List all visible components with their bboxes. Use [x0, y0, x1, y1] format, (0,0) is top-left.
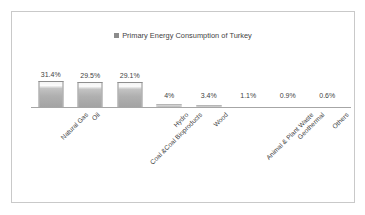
bar-value-label: 29.5%: [71, 72, 111, 79]
x-axis-tick-oil: Oil: [71, 109, 111, 169]
bar-group[interactable]: 31.4%: [31, 52, 71, 107]
bar-group[interactable]: 0.9%: [268, 52, 308, 107]
bar-value-label: 0.6%: [308, 92, 348, 99]
x-axis-tick-label: Oil: [91, 111, 102, 122]
bar-natural-gas[interactable]: [38, 81, 63, 107]
bar-value-label: 31.4%: [31, 71, 71, 78]
chart-frame: Primary Energy Consumption of Turkey 31.…: [11, 11, 355, 203]
x-axis-tick-others: Others: [308, 109, 348, 169]
bar-group[interactable]: 0.6%: [308, 52, 348, 107]
x-axis-tick-hydro: Hydro: [150, 109, 190, 169]
x-axis-line: [31, 107, 351, 108]
x-axis-tick-natural-gas: Natural Gas: [31, 109, 71, 169]
x-axis-tick-geothermal: Geothermal: [268, 109, 308, 169]
x-axis-tick-label: Others: [331, 111, 350, 130]
bar-value-label: 3.4%: [189, 92, 229, 99]
bar-group[interactable]: 1.1%: [229, 52, 269, 107]
bar-value-label: 29.1%: [110, 72, 150, 79]
bar-group[interactable]: 29.5%: [71, 52, 111, 107]
bar-value-label: 0.9%: [268, 92, 308, 99]
x-axis-tick-coal-and-coal-bioproducts: Coal &Coal Bioproducts: [110, 109, 150, 169]
bar-value-label: 1.1%: [229, 92, 269, 99]
chart-title-label: Primary Energy Consumption of Turkey: [122, 31, 252, 40]
bar-group[interactable]: 4%: [150, 52, 190, 107]
chart-title: Primary Energy Consumption of Turkey: [12, 31, 354, 40]
bar-coal-and-coal-bioproducts[interactable]: [117, 82, 142, 107]
x-axis-labels: Natural Gas Oil Coal &Coal Bioproducts H…: [31, 109, 347, 169]
legend-square-icon: [114, 33, 119, 38]
bar-group[interactable]: 3.4%: [189, 52, 229, 107]
x-axis-tick-animal-and-plant-waste: Animal & Plant Waste: [229, 109, 269, 169]
bar-value-label: 4%: [150, 92, 190, 99]
x-axis-tick-label: Wood: [212, 111, 229, 128]
plot-area: 31.4% 29.5% 29.1% 4% 3.4% 1.1% 0.9%: [31, 52, 347, 107]
x-axis-tick-label: Hydro: [172, 111, 189, 128]
x-axis-tick-wood: Wood: [189, 109, 229, 169]
bar-oil[interactable]: [78, 82, 103, 107]
bar-group[interactable]: 29.1%: [110, 52, 150, 107]
